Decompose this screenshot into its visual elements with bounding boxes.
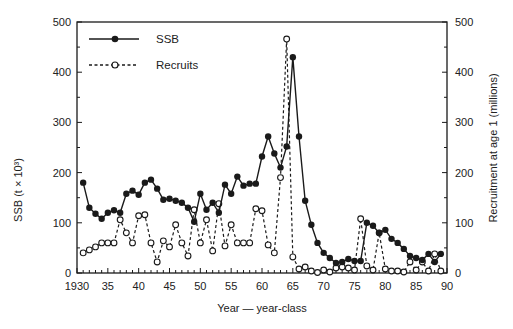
chart-canvas: 1930354045505560657075808590 01002003004…: [0, 0, 513, 329]
recruits-point: [136, 213, 142, 219]
ssb-point: [357, 258, 363, 264]
recruits-point: [123, 230, 129, 236]
recruits-point: [438, 268, 444, 274]
ssb-point: [277, 164, 283, 170]
recruits-point: [105, 240, 111, 246]
recruits-point: [308, 268, 314, 274]
recruits-point: [358, 216, 364, 222]
recruits-point: [234, 240, 240, 246]
recruits-point: [389, 268, 395, 274]
recruits-point: [204, 217, 210, 223]
recruits-point: [80, 250, 86, 256]
recruits-point: [321, 267, 327, 273]
ssb-point: [123, 190, 129, 196]
y-left-tick-label: 400: [53, 66, 71, 78]
ssb-point: [345, 256, 351, 262]
legend: SSB Recruits: [89, 33, 198, 71]
y-left-tick-label: 500: [53, 16, 71, 28]
recruits-point: [407, 259, 413, 265]
y-right-tick-label: 100: [455, 217, 473, 229]
y-right-tick-label: 200: [455, 167, 473, 179]
recruits-point: [185, 253, 191, 259]
ssb-point: [308, 222, 314, 228]
ssb-point: [376, 230, 382, 236]
ssb-point: [92, 211, 98, 217]
y-left-tick-label: 0: [65, 267, 71, 279]
ssb-point: [314, 240, 320, 246]
series-ssb: [80, 54, 444, 266]
x-tick-label: 55: [225, 280, 237, 292]
legend-recruits-label: Recruits: [156, 59, 198, 71]
recruits-point: [117, 217, 123, 223]
ssb-point: [98, 216, 104, 222]
recruits-point: [382, 266, 388, 272]
recruits-point: [259, 208, 265, 214]
ssb-point: [265, 133, 271, 139]
ssb-point: [333, 260, 339, 266]
legend-ssb-marker-icon: [112, 36, 119, 43]
legend-recruits-marker-icon: [112, 62, 118, 68]
recruits-point: [173, 222, 179, 228]
ssb-point: [283, 143, 289, 149]
ssb-point: [290, 54, 296, 60]
y-left-tick-label: 100: [53, 217, 71, 229]
recruits-point: [160, 238, 166, 244]
legend-ssb-label: SSB: [156, 33, 179, 45]
ssb-point: [419, 257, 425, 263]
recruits-point: [154, 259, 160, 265]
ssb-point: [382, 227, 388, 233]
recruits-point: [364, 263, 370, 269]
ssb-point: [425, 251, 431, 257]
ssb-point: [222, 181, 228, 187]
ssb-point: [148, 176, 154, 182]
y-right-tick-label: 500: [455, 16, 473, 28]
recruits-point: [290, 254, 296, 260]
ssb-point: [216, 210, 222, 216]
ssb-point: [339, 259, 345, 265]
recruits-point: [426, 268, 432, 274]
ssb-point: [296, 133, 302, 139]
recruits-point: [167, 244, 173, 250]
y-left-tick-label: 300: [53, 116, 71, 128]
ssb-point: [234, 173, 240, 179]
ssb-point: [197, 190, 203, 196]
x-tick-label: 90: [441, 280, 453, 292]
ssb-point: [240, 182, 246, 188]
x-tick-label: 1930: [65, 280, 89, 292]
ssb-point: [438, 251, 444, 257]
ssb-point: [209, 200, 215, 206]
y-axis-left-title: SSB (t × 10³): [12, 158, 24, 222]
ssb-point: [160, 197, 166, 203]
x-tick-label: 40: [133, 280, 145, 292]
recruits-point: [271, 250, 277, 256]
y-axis-right-title: Recruitment at age 1 (millions): [487, 73, 499, 222]
ssb-point: [129, 187, 135, 193]
recruits-point: [148, 240, 154, 246]
ssb-point: [394, 240, 400, 246]
ssb-point: [401, 246, 407, 252]
recruits-point: [265, 242, 271, 248]
ssb-point: [271, 150, 277, 156]
recruits-point: [401, 269, 407, 275]
ssb-point: [246, 180, 252, 186]
recruits-point: [111, 240, 117, 246]
x-tick-label: 65: [287, 280, 299, 292]
ssb-point: [407, 253, 413, 259]
x-tick-label: 80: [379, 280, 391, 292]
ssb-point: [111, 207, 117, 213]
x-tick-label: 35: [102, 280, 114, 292]
ssb-point: [259, 153, 265, 159]
x-tick-label: 45: [163, 280, 175, 292]
ssb-point: [302, 198, 308, 204]
ssb-point: [364, 220, 370, 226]
ssb-point: [105, 210, 111, 216]
recruits-point: [130, 240, 136, 246]
plot-frame: [77, 22, 447, 273]
ssb-point: [86, 205, 92, 211]
x-tick-label: 60: [256, 280, 268, 292]
recruits-point: [395, 268, 401, 274]
recruits-point: [179, 240, 185, 246]
recruits-point: [86, 247, 92, 253]
ssb-point: [154, 185, 160, 191]
x-tick-label: 70: [318, 280, 330, 292]
